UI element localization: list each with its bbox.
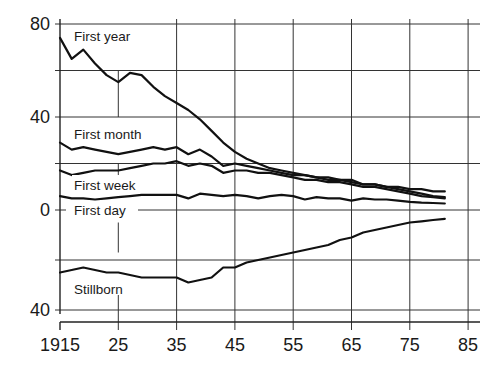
series-lines: [60, 38, 445, 283]
x-tick-label: 75: [400, 335, 420, 355]
x-axis-tick-labels: 191525354555657585: [40, 335, 478, 355]
label-first-day-group: First day: [66, 202, 138, 218]
x-tick-label: 45: [225, 335, 245, 355]
y-axis-tick-labels: 8040040: [30, 14, 50, 320]
label-first-week-group: First week: [72, 175, 152, 193]
x-tick-label: 35: [167, 335, 187, 355]
series-line-first-year: [60, 38, 445, 192]
label-first-month-group: First month: [74, 127, 142, 142]
x-tick-label: 55: [283, 335, 303, 355]
y-tick-label: 40: [30, 300, 50, 320]
y-tick-label: 40: [30, 107, 50, 127]
chart-canvas: 8040040 191525354555657585 First year Fi…: [0, 0, 498, 382]
label-first-month: First month: [74, 127, 142, 142]
series-line-stillborn: [60, 219, 445, 283]
x-tick-label: 25: [108, 335, 128, 355]
label-first-week: First week: [74, 178, 136, 193]
label-stillborn: Stillborn: [74, 282, 123, 297]
axes: [60, 19, 480, 330]
y-tick-label: 0: [40, 200, 50, 220]
label-first-day: First day: [74, 203, 126, 218]
y-tick-label: 80: [30, 14, 50, 34]
label-first-year: First year: [74, 29, 131, 44]
x-tick-label: 85: [458, 335, 478, 355]
x-tick-label: 1915: [40, 335, 80, 355]
x-tick-label: 65: [341, 335, 361, 355]
